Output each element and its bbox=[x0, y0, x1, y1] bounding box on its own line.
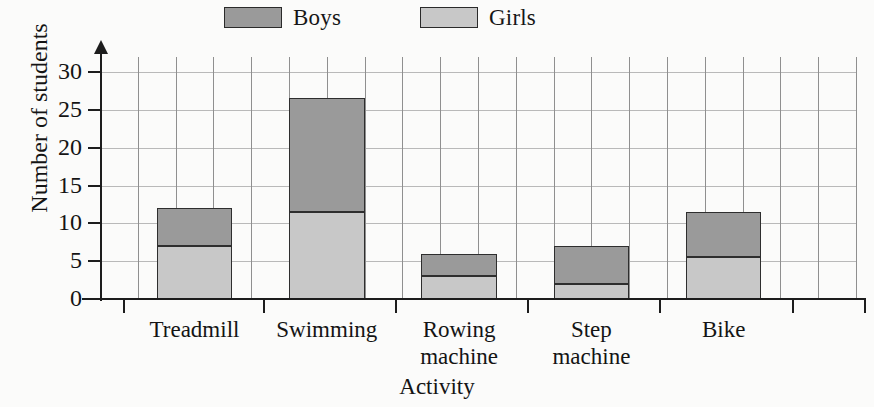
y-axis-tick bbox=[88, 260, 102, 262]
gridline-vertical bbox=[365, 57, 366, 299]
bar-segment-girls bbox=[554, 284, 630, 299]
gridline-vertical bbox=[251, 57, 252, 299]
bar-segment-boys bbox=[157, 208, 233, 246]
bar-segment-girls bbox=[157, 246, 233, 299]
y-tick-label-text: 30 bbox=[48, 59, 82, 83]
y-axis-line bbox=[100, 46, 102, 301]
x-axis-tick bbox=[792, 300, 794, 313]
x-axis-tick bbox=[395, 300, 397, 313]
x-axis-tick bbox=[659, 300, 661, 313]
x-axis-line bbox=[82, 298, 866, 300]
plot-area bbox=[100, 72, 856, 299]
legend-swatch-girls bbox=[420, 7, 478, 28]
y-axis-tick bbox=[88, 298, 102, 300]
bar-segment-boys bbox=[554, 246, 630, 284]
chart-legend: Boys Girls bbox=[0, 6, 874, 40]
y-tick-label-text: 5 bbox=[48, 248, 82, 272]
x-tick-label: Bike bbox=[634, 316, 814, 343]
y-axis-tick bbox=[88, 147, 102, 149]
legend-label-boys: Boys bbox=[293, 6, 341, 29]
x-axis-tick bbox=[527, 300, 529, 313]
gridline-vertical bbox=[780, 57, 781, 299]
bar-bike bbox=[686, 212, 762, 299]
y-tick-label: 5 bbox=[20, 248, 82, 272]
y-axis-tick bbox=[88, 222, 102, 224]
x-tick-label-line: machine bbox=[501, 343, 681, 370]
y-axis-title: Number of students bbox=[26, 0, 52, 243]
y-axis-tick bbox=[88, 185, 102, 187]
y-tick-label-text: 10 bbox=[48, 210, 82, 234]
y-axis-tick bbox=[88, 109, 102, 111]
bar-segment-boys bbox=[421, 254, 497, 277]
y-tick-label-text: 15 bbox=[48, 173, 82, 197]
y-tick-label-text: 20 bbox=[48, 135, 82, 159]
bar-segment-boys bbox=[289, 98, 365, 212]
gridline-vertical bbox=[818, 57, 819, 299]
y-tick-label-text: 0 bbox=[48, 286, 82, 310]
bar-segment-girls bbox=[289, 212, 365, 299]
bar-rowing-machine bbox=[421, 254, 497, 299]
bar-step-machine bbox=[554, 246, 630, 299]
bar-segment-girls bbox=[421, 276, 497, 299]
bar-segment-girls bbox=[686, 257, 762, 299]
bar-segment-boys bbox=[686, 212, 762, 257]
gridline-vertical bbox=[138, 57, 139, 299]
gridline-vertical bbox=[402, 57, 403, 299]
stacked-bar-chart: Boys Girls TreadmillSwimmingRowingmachin… bbox=[0, 0, 874, 407]
legend-swatch-boys bbox=[224, 7, 282, 28]
y-tick-label: 0 bbox=[20, 286, 82, 310]
x-axis-tick bbox=[864, 300, 866, 313]
y-axis-tick bbox=[88, 71, 102, 73]
legend-item-boys: Boys bbox=[224, 6, 341, 29]
gridline-vertical bbox=[667, 57, 668, 299]
x-axis-title: Activity bbox=[0, 374, 874, 399]
legend-item-girls: Girls bbox=[420, 6, 536, 29]
gridline-vertical bbox=[856, 57, 857, 299]
bar-treadmill bbox=[157, 208, 233, 299]
gridline-vertical bbox=[516, 57, 517, 299]
bar-swimming bbox=[289, 98, 365, 299]
x-axis-tick bbox=[263, 300, 265, 313]
y-tick-label-text: 25 bbox=[48, 97, 82, 121]
x-axis-tick bbox=[123, 300, 125, 313]
x-tick-label-line: Bike bbox=[634, 316, 814, 343]
legend-label-girls: Girls bbox=[489, 6, 536, 29]
